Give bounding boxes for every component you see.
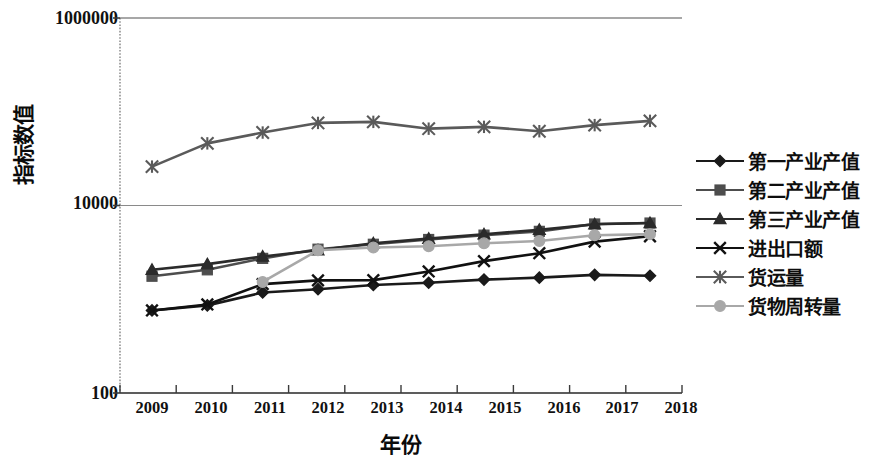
data-point-marker [715, 300, 726, 311]
legend-item[interactable]: 货运量 [696, 262, 882, 291]
data-point-marker [534, 272, 545, 283]
data-point-marker [257, 277, 268, 288]
data-series-layer [146, 115, 656, 317]
data-point-marker [313, 245, 324, 256]
legend-item-label: 进出口额 [744, 234, 822, 261]
legend-marker-glyph [710, 209, 730, 229]
gridlines [120, 18, 682, 393]
legend-item-label: 第三产业产值 [744, 205, 859, 232]
legend-marker-triangle-icon [696, 208, 744, 230]
legend-item-label: 货物周转量 [744, 292, 841, 319]
series-line [152, 275, 650, 311]
legend-marker-asterisk-icon [696, 266, 744, 288]
data-point-marker [146, 160, 158, 172]
data-point-marker [714, 270, 726, 282]
data-series [146, 230, 656, 316]
data-point-marker [714, 213, 726, 224]
legend-marker-glyph [710, 267, 730, 287]
data-point-marker [478, 274, 489, 285]
legend-marker-diamond-icon [696, 150, 744, 172]
legend-marker-glyph [710, 180, 730, 200]
legend-marker-square-icon [696, 179, 744, 201]
legend-item[interactable]: 货物周转量 [696, 291, 882, 320]
legend-item[interactable]: 第一产业产值 [696, 146, 882, 175]
data-point-marker [644, 270, 655, 281]
legend-marker-glyph [710, 151, 730, 171]
legend-item-label: 第一产业产值 [744, 147, 859, 174]
data-point-marker [423, 241, 434, 252]
data-point-marker [423, 277, 434, 288]
legend-marker-circle-icon [696, 295, 744, 317]
legend-item[interactable]: 第二产业产值 [696, 175, 882, 204]
legend-marker-cross-icon [696, 237, 744, 259]
legend-item[interactable]: 第三产业产值 [696, 204, 882, 233]
line-chart: 指标数值 1000000 10000 100 2009 2010 2011 20… [0, 0, 885, 460]
legend-marker-glyph [710, 296, 730, 316]
legend-item[interactable]: 进出口额 [696, 233, 882, 262]
legend: 第一产业产值第二产业产值第三产业产值进出口额货运量货物周转量 [696, 146, 882, 320]
data-series [147, 218, 655, 281]
data-point-marker [714, 242, 726, 254]
series-line [152, 121, 650, 167]
data-series [146, 115, 656, 173]
data-point-marker [589, 269, 600, 280]
data-point-marker [714, 155, 725, 166]
data-point-marker [589, 230, 600, 241]
data-point-marker [479, 238, 490, 249]
legend-item-label: 货运量 [744, 263, 804, 290]
data-point-marker [645, 229, 656, 240]
legend-marker-glyph [710, 238, 730, 258]
data-point-marker [368, 242, 379, 253]
legend-item-label: 第二产业产值 [744, 176, 859, 203]
data-point-marker [534, 236, 545, 247]
data-point-marker [715, 185, 725, 195]
series-line [152, 223, 650, 276]
